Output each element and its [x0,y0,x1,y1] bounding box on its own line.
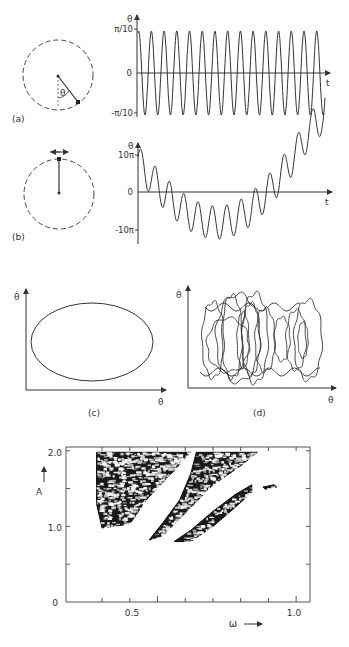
pendulum-bob-b [57,157,61,161]
panel-label-b: (b) [12,232,25,242]
y-axis-label-d: θ̇ [176,289,182,300]
y-axis-label-A: A [36,487,43,497]
pendulum-pivot [57,75,60,78]
y-tick-2: 2.0 [48,448,63,458]
figure: θ (a) θ t π/10 0 -π/10 (b) θ t 10π 0 -10… [0,0,349,647]
panel-d: θ̇ θ (d) [176,286,336,418]
x-axis-label-d: θ [328,395,334,405]
y-tick-b-zero: 0 [128,187,133,197]
pendulum-bob [76,100,80,104]
theta-time-series-b [138,109,324,239]
x-axis-label-c: θ [158,397,164,407]
y-tick-a-bottom: -π/10 [111,108,133,118]
y-tick-0: 0 [52,598,58,608]
y-tick-b-top: 10π [118,150,134,160]
y-axis-label-a: θ [127,14,133,24]
y-tick-a-zero: 0 [127,68,132,78]
y-tick-1: 1.0 [48,523,63,533]
panel-a: θ (a) θ t π/10 0 -π/10 [12,14,330,124]
panel-label-c: (c) [88,408,100,418]
phase-trajectory-d [200,291,323,385]
panel-label-a: (a) [12,114,25,124]
x-axis-label-a: t [326,78,330,88]
panel-b: (b) θ t 10π 0 -10π [12,109,332,244]
y-axis-label-c: θ̇ [14,291,20,302]
parameter-map: 0 1.0 2.0 0.5 1.0 A ω [36,447,310,629]
y-tick-b-bottom: -10π [115,225,134,235]
panel-c: θ̇ θ (c) [14,289,166,418]
panel-label-d: (d) [253,408,266,418]
chaotic-regions [97,452,277,543]
x-axis-label-b: t [325,197,329,207]
x-axis-label-omega: ω [229,618,237,629]
angle-symbol: θ [60,88,66,98]
phase-ellipse [31,303,153,381]
x-tick-1.0: 1.0 [287,608,302,618]
x-tick-0.5: 0.5 [125,608,139,618]
y-tick-a-top: π/10 [114,24,133,34]
